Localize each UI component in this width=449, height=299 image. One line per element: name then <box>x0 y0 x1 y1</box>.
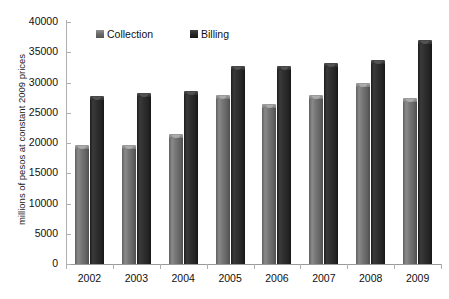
y-tick-label: 35000 <box>0 45 58 57</box>
legend-swatch-billing <box>190 30 198 38</box>
bar-body <box>75 149 89 264</box>
bar-billing-2004 <box>184 91 198 264</box>
bar-chart: millions of pesos at constant 2009 price… <box>0 0 449 299</box>
y-tick-mark <box>66 173 71 174</box>
bar-billing-2009 <box>418 40 432 264</box>
x-tick-mark <box>347 264 348 269</box>
y-tick-label: 25000 <box>0 106 58 118</box>
bar-billing-2002 <box>90 96 104 264</box>
y-tick-mark <box>66 143 71 144</box>
y-tick-mark <box>66 52 71 53</box>
bar-body <box>371 64 385 264</box>
bar-body <box>403 102 417 264</box>
x-tick-mark <box>207 264 208 269</box>
bar-body <box>216 99 230 264</box>
x-tick-mark <box>394 264 395 269</box>
x-tick-mark <box>254 264 255 269</box>
bar-body <box>169 138 183 264</box>
y-tick-mark <box>66 83 71 84</box>
x-tick-mark <box>300 264 301 269</box>
bar-collection-2007 <box>309 95 323 264</box>
bar-body <box>324 67 338 264</box>
bar-collection-2002 <box>75 145 89 264</box>
x-tick-mark <box>441 264 442 269</box>
y-tick-label: 15000 <box>0 166 58 178</box>
legend-swatch-collection <box>96 30 104 38</box>
y-tick-mark <box>66 113 71 114</box>
y-tick-mark <box>66 204 71 205</box>
x-tick-mark <box>160 264 161 269</box>
y-tick-mark <box>66 234 71 235</box>
legend-label-collection: Collection <box>107 28 153 40</box>
y-tick-label: 10000 <box>0 197 58 209</box>
bar-body <box>418 44 432 264</box>
bar-body <box>277 70 291 264</box>
x-tick-label: 2009 <box>388 272 448 284</box>
bar-billing-2003 <box>137 93 151 264</box>
y-tick-mark <box>66 22 71 23</box>
bar-body <box>309 99 323 264</box>
bar-body <box>137 97 151 264</box>
bar-body <box>231 70 245 264</box>
bar-collection-2005 <box>216 95 230 264</box>
y-tick-label: 40000 <box>0 15 58 27</box>
bar-body <box>184 95 198 264</box>
y-tick-label: 0 <box>0 257 58 269</box>
bar-body <box>262 108 276 264</box>
bar-billing-2008 <box>371 60 385 264</box>
bar-body <box>356 87 370 265</box>
bar-billing-2006 <box>277 66 291 264</box>
bar-collection-2009 <box>403 98 417 264</box>
bar-billing-2005 <box>231 66 245 264</box>
bar-collection-2006 <box>262 104 276 264</box>
bar-collection-2008 <box>356 83 370 265</box>
legend-item-billing: Billing <box>190 28 229 40</box>
bar-billing-2007 <box>324 63 338 264</box>
y-tick-label: 30000 <box>0 76 58 88</box>
bar-collection-2003 <box>122 145 136 264</box>
bar-body <box>122 149 136 264</box>
legend-label-billing: Billing <box>201 28 229 40</box>
bar-body <box>90 100 104 264</box>
bar-collection-2004 <box>169 134 183 264</box>
legend-item-collection: Collection <box>96 28 153 40</box>
y-tick-label: 20000 <box>0 136 58 148</box>
x-tick-mark <box>66 264 67 269</box>
y-tick-label: 5000 <box>0 227 58 239</box>
x-tick-mark <box>113 264 114 269</box>
